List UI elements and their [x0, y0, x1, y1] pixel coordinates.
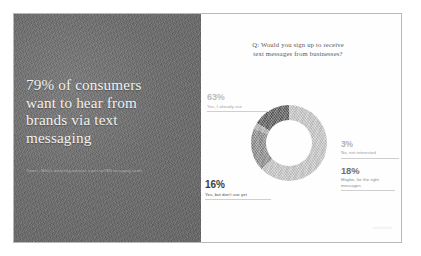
callout-percent-3: 3% — [341, 140, 399, 148]
donut-ring — [251, 105, 327, 181]
callout-desc-3: No, not interested — [341, 150, 399, 156]
chart-title: Q: Would you sign up to receive text mes… — [201, 40, 395, 59]
source-citation: Source: Mobile marketing statistics repo… — [27, 169, 189, 174]
chart-panel: Q: Would you sign up to receive text mes… — [201, 14, 401, 242]
callout-percent-18: 18% — [341, 166, 395, 175]
callout-label-18: 18% Maybe, for the right messages — [341, 166, 395, 191]
headline-line-4: messaging — [26, 129, 194, 147]
callout-label-63: 63% Yes, I already use — [207, 93, 269, 112]
callout-desc-63: Yes, I already use — [207, 104, 269, 110]
callout-rule-63 — [207, 111, 269, 112]
hero-headline: 79% of consumers want to hear from brand… — [26, 76, 194, 146]
callout-desc-18-line-2: messages — [341, 183, 361, 188]
brand-watermark: attentive — [373, 226, 392, 230]
headline-line-2: want to hear from — [26, 94, 194, 112]
slide-canvas: 79% of consumers want to hear from brand… — [13, 13, 402, 243]
chart-title-line-2: text messages from businesses? — [201, 49, 395, 58]
chart-title-line-1: Q: Would you sign up to receive — [201, 40, 395, 49]
callout-desc-18: Maybe, for the right messages — [341, 177, 395, 188]
callout-percent-63: 63% — [207, 93, 269, 102]
callout-percent-16: 16% — [205, 180, 271, 190]
donut-chart — [251, 105, 327, 181]
callout-desc-16: Yes, but don't use yet — [205, 192, 271, 198]
callout-desc-18-line-1: Maybe, for the right — [341, 177, 379, 182]
headline-line-3: brands via text — [26, 111, 194, 129]
donut-texture-overlay — [251, 105, 327, 181]
headline-line-1: 79% of consumers — [26, 76, 194, 94]
callout-label-3: 3% No, not interested — [341, 140, 399, 159]
callout-rule-16 — [205, 199, 271, 200]
left-hero-panel: 79% of consumers want to hear from brand… — [14, 14, 201, 242]
callout-rule-3 — [341, 158, 399, 159]
callout-label-16: 16% Yes, but don't use yet — [205, 180, 271, 200]
callout-rule-18 — [341, 190, 395, 191]
